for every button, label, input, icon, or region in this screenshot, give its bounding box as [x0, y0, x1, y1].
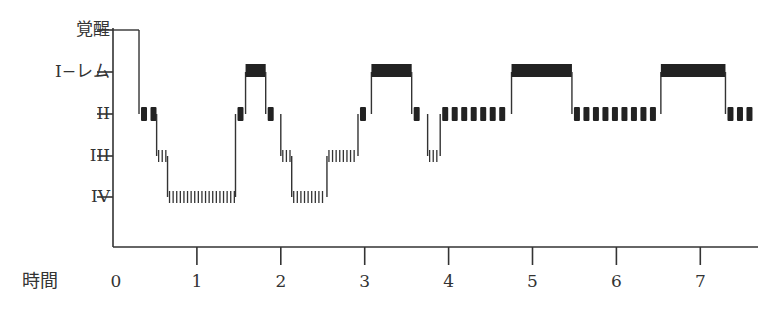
y-label-3: II [97, 105, 110, 122]
x-tick-label: 6 [611, 273, 622, 290]
x-tick-label: 0 [111, 273, 122, 290]
x-tick-label: 1 [191, 273, 202, 290]
x-tick-label: 5 [527, 273, 538, 290]
y-label-2: I−レム [55, 63, 110, 80]
x-tick-label: 7 [695, 273, 706, 290]
hypnogram-chart [0, 0, 782, 316]
y-label-4: III [90, 147, 110, 164]
sleep-stage-trace [113, 30, 752, 203]
y-label-5: IV [91, 188, 110, 205]
x-tick-label: 4 [443, 273, 454, 290]
x-tick-label: 2 [275, 273, 286, 290]
y-label-1: 覚醒 [76, 21, 110, 38]
x-axis-title: 時間 [22, 266, 58, 292]
x-tick-label: 3 [359, 273, 370, 290]
